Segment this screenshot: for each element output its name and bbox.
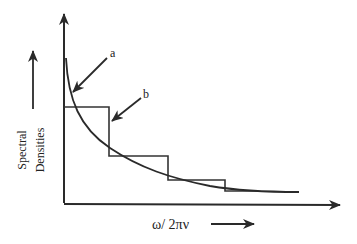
- callout-a-label: a: [110, 46, 116, 60]
- y-axis-label-line1: Spectral: [15, 130, 29, 170]
- callout-b-arrow: [112, 98, 141, 121]
- x-axis: [64, 204, 340, 205]
- x-axis-label: ω/ 2πν: [152, 217, 189, 232]
- y-axis-label-line2: Densities: [33, 127, 47, 172]
- step-function: [64, 107, 258, 191]
- callout-b-label: b: [143, 87, 149, 101]
- continuous-curve: [66, 58, 299, 192]
- callout-a-arrow: [73, 58, 107, 92]
- diagram: a b Spectral Densities ω/ 2πν: [0, 0, 357, 244]
